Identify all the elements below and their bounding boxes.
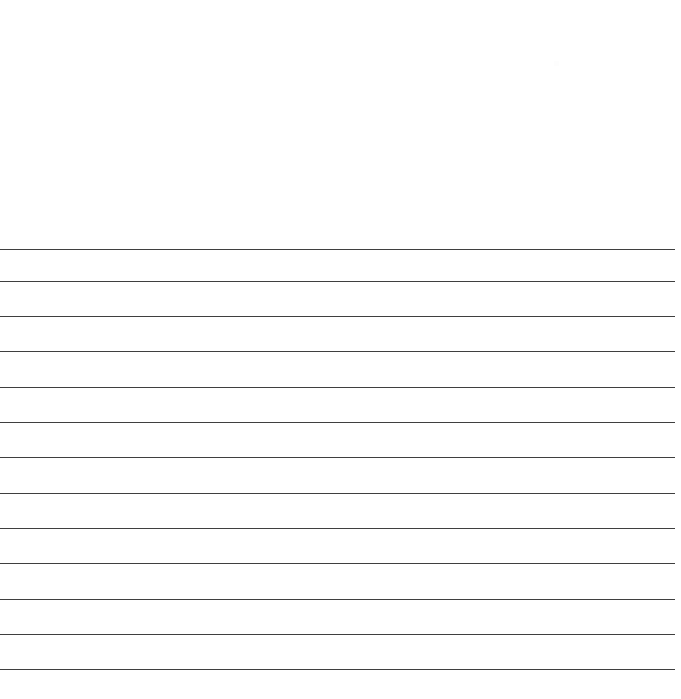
rule-line — [0, 669, 675, 670]
ruled-lines-group — [0, 0, 681, 699]
rule-line — [0, 351, 675, 352]
rule-line — [0, 316, 675, 317]
rule-line — [0, 387, 675, 388]
rule-line — [0, 634, 675, 635]
blank-footer-area — [0, 671, 681, 699]
rule-line — [0, 457, 675, 458]
rule-line — [0, 493, 675, 494]
rule-line — [0, 599, 675, 600]
rule-line — [0, 249, 675, 250]
rule-line — [0, 422, 675, 423]
rule-line — [0, 563, 675, 564]
rule-line — [0, 528, 675, 529]
rule-line — [0, 281, 675, 282]
ruled-paper-page — [0, 0, 681, 699]
